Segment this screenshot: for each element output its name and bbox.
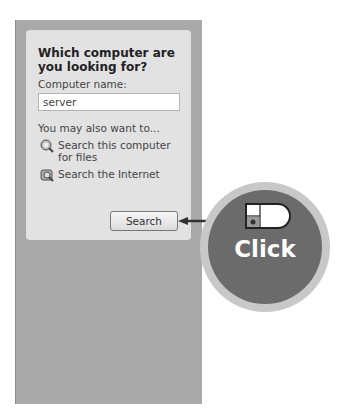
search-button[interactable]: Search: [110, 211, 178, 231]
search-title: Which computer are you looking for?: [38, 46, 188, 74]
computer-name-input[interactable]: server: [38, 93, 180, 111]
search-computer-icon: [40, 139, 54, 153]
also-label: You may also want to...: [38, 122, 160, 134]
search-internet-link[interactable]: Search the Internet: [40, 168, 176, 182]
search-computer-link[interactable]: Search this computer for files: [40, 139, 176, 163]
mouse-left-click-icon: [244, 202, 292, 230]
search-computer-link-label: Search this computer for files: [58, 139, 176, 163]
search-internet-link-label: Search the Internet: [58, 168, 176, 180]
search-internet-icon: [40, 168, 54, 182]
computer-name-label: Computer name:: [38, 78, 127, 90]
click-label: Click: [208, 236, 322, 262]
